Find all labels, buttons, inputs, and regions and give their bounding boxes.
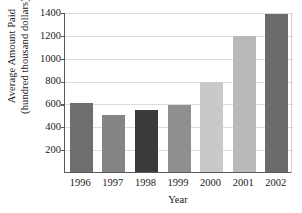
gridline (65, 36, 293, 37)
x-axis-tick-label: 2000 (194, 177, 227, 188)
y-axis-title-line-2: (hundred thousand dollars) (19, 0, 32, 136)
x-axis-tick-label: 1998 (129, 177, 162, 188)
bar-1996 (70, 103, 93, 172)
y-axis-tick-label: 400 (15, 122, 61, 133)
x-axis-title: Year (64, 194, 292, 205)
y-axis-title-line-1: Average Amount Paid (6, 0, 19, 136)
bar-1998 (135, 110, 158, 172)
bar-1997 (102, 115, 125, 172)
y-axis-tick (61, 104, 66, 105)
gridline (65, 82, 293, 83)
gridline (65, 13, 293, 14)
x-axis-tick-label: 2002 (259, 177, 292, 188)
y-axis-tick-label: 1200 (15, 31, 61, 42)
plot-area (64, 13, 292, 173)
x-axis-tick-label: 1997 (97, 177, 130, 188)
y-axis-tick-label: 600 (15, 99, 61, 110)
y-axis-tick (61, 127, 66, 128)
x-axis-tick-label: 1996 (64, 177, 97, 188)
gridline (65, 59, 293, 60)
y-axis-tick-label: 1000 (15, 54, 61, 65)
y-axis-tick (61, 82, 66, 83)
y-axis-tick-label: 800 (15, 76, 61, 87)
y-axis-title: Average Amount Paid (hundred thousand do… (6, 0, 38, 136)
y-axis-tick (61, 13, 66, 14)
bar-2001 (233, 36, 256, 172)
bar-1999 (168, 105, 191, 172)
y-axis-tick (61, 59, 66, 60)
x-axis-tick-label: 1999 (162, 177, 195, 188)
bar-chart: Average Amount Paid (hundred thousand do… (0, 0, 302, 213)
y-axis-tick-label: 200 (15, 145, 61, 156)
y-axis-tick-label: 1400 (15, 8, 61, 19)
x-axis-tick-label: 2001 (227, 177, 260, 188)
y-axis-tick (61, 150, 66, 151)
plot-frame-right-edge (291, 13, 292, 173)
y-axis-tick (61, 36, 66, 37)
bar-2002 (265, 14, 288, 172)
bar-2000 (200, 82, 223, 172)
